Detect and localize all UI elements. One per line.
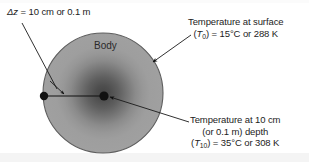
depth-temperature-annotation: Temperature at 10 cm (or 0.1 m) depth (T… xyxy=(190,114,280,149)
depth-temperature-line2: (or 0.1 m) depth xyxy=(190,126,280,138)
thickness-equals: = xyxy=(18,6,29,17)
depth-symbol-var: T xyxy=(194,137,200,148)
depth-equals: = xyxy=(210,137,221,148)
surface-symbol-sub: 0 xyxy=(202,33,206,40)
surface-temperature-line1: Temperature at surface xyxy=(188,16,284,28)
depth-temperature-line1: Temperature at 10 cm xyxy=(190,114,280,126)
delta-z-symbol: Δz xyxy=(7,6,18,17)
center-point-marker xyxy=(99,91,108,100)
surface-temperature-annotation: Temperature at surface (T0) = 15°C or 28… xyxy=(188,16,284,39)
surface-temperature-line2: (T0) = 15°C or 288 K xyxy=(188,28,284,40)
surface-point-marker xyxy=(40,92,48,100)
thickness-value: 10 cm or 0.1 m xyxy=(28,6,90,17)
depth-temperature-value: 35°C or 308 K xyxy=(221,137,279,148)
surface-equals: = xyxy=(209,28,220,39)
thickness-annotation: Δz = 10 cm or 0.1 m xyxy=(7,6,90,18)
depth-symbol-sub: 10 xyxy=(200,142,207,149)
depth-temperature-line3: (T10) = 35°C or 308 K xyxy=(190,137,280,149)
body-label: Body xyxy=(94,40,117,51)
heat-conduction-figure: Body Δz = 10 cm or 0.1 m Temperature at … xyxy=(0,0,309,162)
surface-temperature-value: 15°C or 288 K xyxy=(220,28,278,39)
surface-leader-line xyxy=(153,35,191,62)
thickness-leader-line xyxy=(22,23,57,89)
